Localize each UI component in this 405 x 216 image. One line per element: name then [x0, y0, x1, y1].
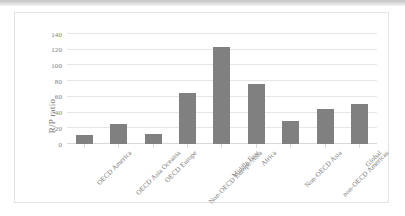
bar: [213, 47, 230, 144]
x-label-slot: Global: [343, 149, 377, 209]
bar: [76, 135, 93, 144]
x-tick-slot: [101, 144, 135, 148]
x-label-slot: Africa: [239, 149, 273, 209]
x-tick-mark: [359, 144, 360, 148]
bar-slot: [136, 34, 170, 144]
x-axis-labels: OECD AmericaOECD Asia OceaniaOECD Europe…: [67, 149, 377, 209]
x-label-slot: Non-OECD Europe/Asia: [170, 149, 204, 209]
x-tick-mark: [153, 144, 154, 148]
bar-slot: [239, 34, 273, 144]
x-tick-slot: [170, 144, 204, 148]
x-tick-slot: [205, 144, 239, 148]
bar: [248, 84, 265, 144]
bar: [351, 104, 368, 144]
x-tick-slot: [308, 144, 342, 148]
bar-series: [67, 34, 377, 144]
chart-page: R/P ratio 020406080100120140 OECD Americ…: [0, 0, 405, 216]
bar-slot: [308, 34, 342, 144]
x-tick-mark: [84, 144, 85, 148]
x-label-slot: non-OECD Americas: [308, 149, 342, 209]
y-tick-label: 0: [58, 141, 62, 149]
scan-artifact-band-shadow: [0, 4, 405, 6]
x-tick-mark: [221, 144, 222, 148]
plot-area: 020406080100120140: [67, 34, 377, 144]
bar-slot: [170, 34, 204, 144]
x-tick-slot: [343, 144, 377, 148]
x-label-slot: Middle East: [205, 149, 239, 209]
y-tick-label: 20: [55, 125, 62, 133]
bar: [317, 109, 334, 144]
x-tick-mark: [325, 144, 326, 148]
x-label-slot: Non-OECD Asia: [274, 149, 308, 209]
bar-slot: [274, 34, 308, 144]
x-tick-slot: [274, 144, 308, 148]
bar-slot: [205, 34, 239, 144]
y-tick-label: 100: [51, 62, 62, 70]
x-tick-mark: [256, 144, 257, 148]
y-tick-label: 120: [51, 46, 62, 54]
x-label-slot: OECD Europe: [136, 149, 170, 209]
x-tick-slot: [239, 144, 273, 148]
x-tick-mark: [290, 144, 291, 148]
bar: [145, 134, 162, 144]
bar-slot: [67, 34, 101, 144]
bar-slot: [101, 34, 135, 144]
x-tick-mark: [187, 144, 188, 148]
chart-frame: R/P ratio 020406080100120140 OECD Americ…: [14, 12, 389, 203]
x-label-slot: OECD Asia Oceania: [101, 149, 135, 209]
x-tick-slot: [67, 144, 101, 148]
x-axis-ticks: [67, 144, 377, 148]
bar: [179, 93, 196, 144]
x-tick-mark: [118, 144, 119, 148]
y-tick-label: 40: [55, 109, 62, 117]
x-label-slot: OECD America: [67, 149, 101, 209]
x-tick-slot: [136, 144, 170, 148]
y-tick-label: 140: [51, 31, 62, 39]
bar: [282, 121, 299, 144]
y-tick-label: 60: [55, 93, 62, 101]
bar-slot: [343, 34, 377, 144]
y-tick-label: 80: [55, 78, 62, 86]
bar: [110, 124, 127, 144]
